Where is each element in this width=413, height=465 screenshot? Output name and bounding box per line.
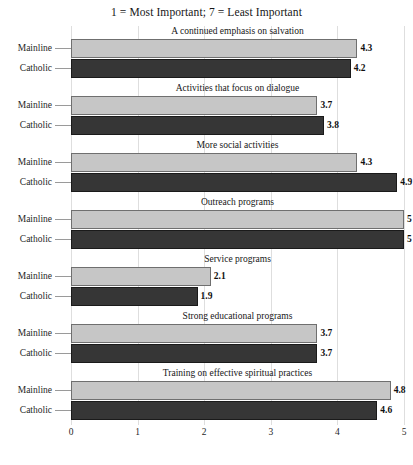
bar-value-label: 4.2 (351, 59, 366, 78)
category-label: Catholic (0, 59, 52, 78)
bar-mainline (71, 96, 317, 115)
chart-panel: Training on effective spiritual practice… (0, 368, 413, 425)
bar-value-label: 3.7 (317, 344, 332, 363)
chart-row: Catholic3.8 (0, 116, 413, 135)
panel-title: A continued emphasis on salvation (71, 26, 404, 36)
category-label: Catholic (0, 344, 52, 363)
chart-panel: A continued emphasis on salvationMainlin… (0, 26, 413, 83)
chart-row: Catholic5 (0, 230, 413, 249)
bar-mainline (71, 324, 317, 343)
chart-panel: Activities that focus on dialogueMainlin… (0, 83, 413, 140)
panel-title: Training on effective spiritual practice… (71, 368, 404, 378)
leader-line (55, 182, 71, 183)
x-tick-label: 0 (69, 427, 74, 437)
panel-title: Strong educational programs (71, 311, 404, 321)
chart-title: 1 = Most Important; 7 = Least Important (0, 6, 413, 18)
chart-row: Mainline4.3 (0, 153, 413, 172)
bar-track: 5 (71, 210, 404, 229)
chart-row: Catholic4.9 (0, 173, 413, 192)
bar-value-label: 3.8 (324, 116, 339, 135)
bar-catholic (71, 59, 351, 78)
bar-value-label: 3.7 (317, 324, 332, 343)
leader-line (55, 333, 71, 334)
bar-track: 4.3 (71, 153, 404, 172)
panel-rows: Mainline3.7Catholic3.7 (0, 324, 413, 366)
category-label: Catholic (0, 173, 52, 192)
leader-line (55, 68, 71, 69)
panel-title: Service programs (71, 254, 404, 264)
category-label: Mainline (0, 153, 52, 172)
panel-rows: Mainline4.3Catholic4.9 (0, 153, 413, 195)
bar-track: 4.6 (71, 401, 404, 420)
leader-line (55, 105, 71, 106)
chart-row: Mainline3.7 (0, 96, 413, 115)
panel-rows: Mainline5Catholic5 (0, 210, 413, 252)
leader-line (55, 353, 71, 354)
bar-track: 4.3 (71, 39, 404, 58)
chart-root: 1 = Most Important; 7 = Least Important … (0, 0, 413, 465)
bar-mainline (71, 210, 404, 229)
chart-row: Catholic3.7 (0, 344, 413, 363)
category-label: Mainline (0, 267, 52, 286)
panel-rows: Mainline4.8Catholic4.6 (0, 381, 413, 423)
leader-line (55, 296, 71, 297)
bar-track: 3.7 (71, 344, 404, 363)
chart-panel: Service programsMainline2.1Catholic1.9 (0, 254, 413, 311)
chart-row: Mainline2.1 (0, 267, 413, 286)
bar-value-label: 3.7 (317, 96, 332, 115)
chart-row: Mainline4.8 (0, 381, 413, 400)
chart-row: Mainline3.7 (0, 324, 413, 343)
bar-catholic (71, 116, 324, 135)
bar-catholic (71, 287, 198, 306)
bar-track: 5 (71, 230, 404, 249)
panel-rows: Mainline3.7Catholic3.8 (0, 96, 413, 138)
leader-line (55, 410, 71, 411)
x-tick-label: 2 (202, 427, 207, 437)
bar-track: 2.1 (71, 267, 404, 286)
bar-value-label: 4.6 (377, 401, 392, 420)
category-label: Mainline (0, 96, 52, 115)
category-label: Catholic (0, 230, 52, 249)
bar-track: 3.7 (71, 96, 404, 115)
bar-value-label: 5 (404, 230, 412, 249)
panel-title: Outreach programs (71, 197, 404, 207)
leader-line (55, 276, 71, 277)
bar-track: 4.9 (71, 173, 404, 192)
chart-row: Catholic4.2 (0, 59, 413, 78)
leader-line (55, 125, 71, 126)
bar-track: 4.8 (71, 381, 404, 400)
x-tick-label: 3 (268, 427, 273, 437)
bar-track: 3.8 (71, 116, 404, 135)
bar-value-label: 4.3 (357, 153, 372, 172)
bar-mainline (71, 153, 357, 172)
bar-catholic (71, 344, 317, 363)
chart-panel: Strong educational programsMainline3.7Ca… (0, 311, 413, 368)
panel-rows: Mainline4.3Catholic4.2 (0, 39, 413, 81)
bar-mainline (71, 381, 391, 400)
panel-title: More social activities (71, 140, 404, 150)
x-tick-label: 5 (402, 427, 407, 437)
category-label: Mainline (0, 210, 52, 229)
bar-value-label: 1.9 (198, 287, 213, 306)
category-label: Catholic (0, 116, 52, 135)
panel-list: A continued emphasis on salvationMainlin… (0, 26, 413, 425)
bar-track: 4.2 (71, 59, 404, 78)
category-label: Mainline (0, 324, 52, 343)
chart-row: Mainline4.3 (0, 39, 413, 58)
bar-track: 1.9 (71, 287, 404, 306)
chart-row: Catholic4.6 (0, 401, 413, 420)
bar-value-label: 4.3 (357, 39, 372, 58)
leader-line (55, 48, 71, 49)
bar-track: 3.7 (71, 324, 404, 343)
x-tick-label: 1 (135, 427, 140, 437)
bar-mainline (71, 267, 211, 286)
chart-row: Catholic1.9 (0, 287, 413, 306)
leader-line (55, 390, 71, 391)
category-label: Catholic (0, 287, 52, 306)
panel-title: Activities that focus on dialogue (71, 83, 404, 93)
category-label: Mainline (0, 39, 52, 58)
bar-value-label: 2.1 (211, 267, 226, 286)
leader-line (55, 219, 71, 220)
bar-value-label: 4.8 (391, 381, 406, 400)
bar-value-label: 4.9 (397, 173, 412, 192)
